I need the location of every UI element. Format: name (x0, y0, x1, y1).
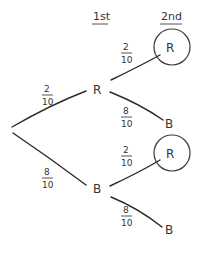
node-first-blue: B (93, 182, 101, 196)
node-first-red: R (93, 83, 101, 97)
branch-blue-to-red (110, 160, 160, 186)
column-header-second: 2nd (160, 10, 182, 24)
svg-text:10: 10 (42, 180, 54, 190)
fraction-blue-blue: 8 10 (121, 205, 133, 228)
node-red-blue: B (165, 117, 173, 131)
svg-text:8: 8 (44, 167, 50, 177)
svg-text:2: 2 (123, 42, 129, 52)
svg-text:10: 10 (121, 158, 133, 168)
fraction-root-blue: 8 10 (42, 167, 54, 190)
svg-text:R: R (166, 41, 174, 55)
svg-text:R: R (166, 147, 174, 161)
probability-tree-diagram: 1st 2nd 2 10 8 10 R B 2 10 8 10 2 1 (0, 0, 204, 255)
svg-text:10: 10 (121, 119, 133, 129)
fraction-root-red: 2 10 (42, 84, 54, 107)
svg-text:8: 8 (123, 106, 129, 116)
branch-red-to-blue (110, 92, 163, 120)
svg-text:10: 10 (42, 97, 54, 107)
fraction-red-blue: 8 10 (121, 106, 133, 129)
node-blue-blue: B (165, 223, 173, 237)
fraction-blue-red: 2 10 (121, 145, 133, 168)
column-header-first: 1st (92, 10, 111, 24)
svg-text:8: 8 (123, 205, 129, 215)
svg-text:1st: 1st (93, 10, 111, 23)
svg-text:2: 2 (44, 84, 50, 94)
fraction-red-red: 2 10 (121, 42, 133, 65)
node-red-red-circled: R (154, 29, 190, 65)
branch-red-to-red (111, 55, 160, 80)
branch-root-to-blue (13, 133, 86, 185)
node-blue-red-circled: R (154, 135, 190, 171)
svg-text:10: 10 (121, 55, 133, 65)
svg-text:10: 10 (121, 218, 133, 228)
branch-blue-to-blue (111, 197, 162, 227)
svg-text:2nd: 2nd (161, 10, 182, 23)
svg-text:2: 2 (123, 145, 129, 155)
